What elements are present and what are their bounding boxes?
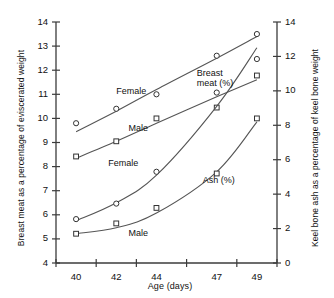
annotation-label: Ash (%): [203, 175, 235, 185]
plot-canvas: [0, 0, 334, 298]
y-tick-label-right: 12: [285, 50, 305, 61]
y-tick-label-left: 14: [22, 16, 48, 27]
x-tick-label: 44: [141, 271, 171, 282]
y-tick-label-right: 4: [285, 188, 305, 199]
annotation-line-2: meat (%): [197, 78, 234, 88]
y-tick-label-right: 6: [285, 153, 305, 164]
y-tick-label-left: 7: [22, 184, 48, 195]
y-tick-label-right: 10: [285, 84, 305, 95]
y-tick-label-right: 0: [285, 257, 305, 268]
y-tick-label-left: 5: [22, 232, 48, 243]
y-tick-label-left: 6: [22, 208, 48, 219]
y-tick-label-right: 8: [285, 119, 305, 130]
y-tick-label-left: 9: [22, 136, 48, 147]
x-tick-label: 40: [61, 271, 91, 282]
x-tick-label: 42: [101, 271, 131, 282]
y-tick-label-left: 8: [22, 160, 48, 171]
y-tick-label-right: 14: [285, 16, 305, 27]
y-tick-label-right: 2: [285, 222, 305, 233]
annotation-line-1: Male: [128, 123, 148, 133]
chart-figure: Breast meat as a percentage of eviscerat…: [0, 0, 334, 298]
annotation-label: Breastmeat (%): [197, 68, 234, 88]
y-tick-label-left: 11: [22, 88, 48, 99]
annotation-line-1: Female: [108, 158, 138, 168]
y-tick-label-left: 13: [22, 40, 48, 51]
annotation-label: Female: [116, 86, 146, 96]
annotation-line-1: Female: [116, 86, 146, 96]
annotation-label: Male: [128, 123, 148, 133]
annotation-line-1: Ash (%): [203, 175, 235, 185]
y-tick-label-left: 4: [22, 257, 48, 268]
x-tick-label: 49: [242, 271, 272, 282]
annotation-line-1: Breast: [197, 68, 234, 78]
annotation-label: Male: [128, 228, 148, 238]
y-tick-label-left: 10: [22, 112, 48, 123]
annotation-line-1: Male: [128, 228, 148, 238]
y-tick-label-left: 12: [22, 64, 48, 75]
x-tick-label: 47: [202, 271, 232, 282]
annotation-label: Female: [108, 158, 138, 168]
